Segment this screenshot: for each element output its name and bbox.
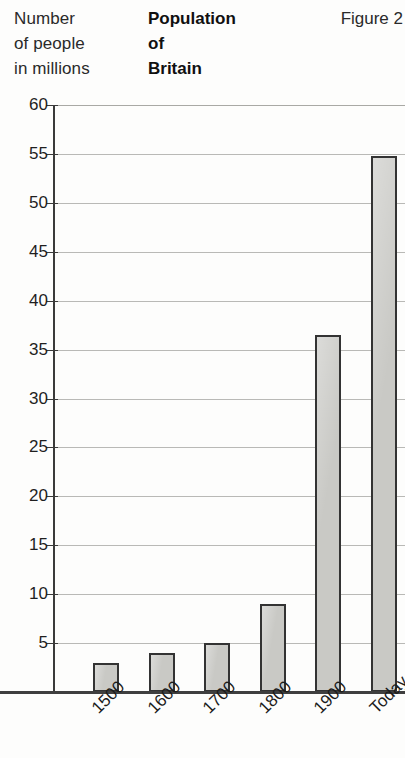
gridline-5 [53,643,405,644]
x-tick-label-1700: 1700 [199,677,240,718]
y-tick-label-40: 40 [4,291,48,311]
y-tick-60 [46,105,58,106]
x-tick-label-1900: 1900 [310,677,351,718]
y-axis-caption-line-3: in millions [14,56,90,81]
y-tick-label-10: 10 [4,584,48,604]
plot-area: 51015202530354045505560 1500160017001800… [0,0,405,758]
y-axis-line [53,105,55,693]
figure-number-label: Figure 2 [341,6,403,31]
chart-title-line-1: Population [148,6,236,31]
bar-today [371,156,397,692]
y-tick-label-15: 15 [4,535,48,555]
y-tick-40 [46,301,58,302]
y-axis-caption-line-2: of people [14,31,90,56]
y-tick-label-45: 45 [4,242,48,262]
y-tick-55 [46,154,58,155]
x-axis-baseline [0,691,405,694]
y-tick-50 [46,203,58,204]
chart-title-line-2: of [148,31,236,56]
y-tick-25 [46,447,58,448]
y-tick-30 [46,399,58,400]
y-tick-label-35: 35 [4,340,48,360]
x-tick-label-1800: 1800 [255,677,296,718]
gridline-50 [53,203,405,204]
x-tick-label-1500: 1500 [88,677,129,718]
y-tick-35 [46,350,58,351]
chart-title-line-3: Britain [148,56,236,81]
y-tick-label-30: 30 [4,389,48,409]
bar-1600 [149,653,175,692]
gridline-40 [53,301,405,302]
gridline-35 [53,350,405,351]
y-tick-15 [46,545,58,546]
bar-1700 [204,643,230,692]
figure-header: Number of people in millions Population … [0,0,405,95]
y-tick-label-50: 50 [4,193,48,213]
gridline-25 [53,447,405,448]
gridline-45 [53,252,405,253]
gridline-10 [53,594,405,595]
chart-title: Population of Britain [148,6,236,81]
gridline-15 [53,545,405,546]
x-tick-label-1600: 1600 [144,677,185,718]
gridline-60 [53,105,405,106]
y-tick-10 [46,594,58,595]
y-tick-label-20: 20 [4,486,48,506]
y-tick-label-25: 25 [4,437,48,457]
y-tick-20 [46,496,58,497]
y-tick-label-55: 55 [4,144,48,164]
y-tick-label-5: 5 [4,633,48,653]
figure-container: Number of people in millions Population … [0,0,405,758]
y-tick-45 [46,252,58,253]
bar-1900 [315,335,341,692]
y-tick-5 [46,643,58,644]
y-axis-caption: Number of people in millions [14,6,90,81]
x-tick-label-today: Today [366,672,405,718]
y-axis-caption-line-1: Number [14,6,90,31]
gridline-30 [53,399,405,400]
gridline-55 [53,154,405,155]
y-tick-label-60: 60 [4,95,48,115]
gridline-20 [53,496,405,497]
bar-1800 [260,604,286,692]
bar-1500 [93,663,119,692]
